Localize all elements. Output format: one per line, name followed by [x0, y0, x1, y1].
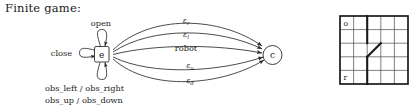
self-loop-obs [97, 63, 106, 80]
edge-label-eps-r-sub: r [187, 20, 190, 26]
edge-labels: εr εl robot εu εd [175, 16, 198, 86]
grid-walls [367, 16, 381, 84]
edge-label-eps-d-sub: d [190, 80, 194, 86]
node-c[interactable]: c [263, 46, 282, 65]
self-loop-open [97, 29, 106, 46]
svg-text:εr: εr [183, 16, 190, 26]
grid-world: o r [340, 16, 408, 84]
finite-game-figure: Finite game: εr εl robot [0, 0, 414, 108]
svg-text:εl: εl [183, 30, 189, 40]
edge-label-eps-u-sub: u [190, 65, 194, 71]
label-close: close [51, 48, 72, 58]
svg-text:εu: εu [186, 61, 194, 71]
svg-text:εd: εd [186, 76, 194, 86]
edge-label-eps-l-sub: l [187, 34, 189, 40]
label-obs-line1: obs_left / obs_right [45, 83, 125, 93]
node-e[interactable]: e [95, 47, 110, 63]
automaton-diagram: εr εl robot εu εd e [0, 0, 414, 108]
node-c-label: c [270, 50, 275, 60]
label-obs-line2: obs_up / obs_down [45, 95, 124, 105]
edge-label-robot: robot [175, 43, 198, 53]
label-open: open [91, 18, 112, 28]
self-loop-close [79, 48, 96, 57]
wall-diagonal [367, 43, 381, 57]
self-loop-labels: open close obs_left / obs_right obs_up /… [45, 18, 125, 105]
node-e-label: e [99, 50, 104, 60]
grid-cell-label-o: o [344, 19, 349, 28]
grid-cell-label-r: r [344, 73, 348, 82]
